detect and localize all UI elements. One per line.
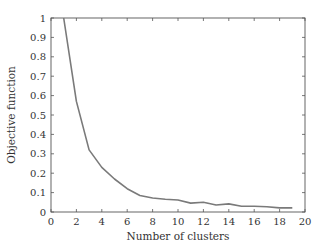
y-tick-label: 0.1 bbox=[30, 187, 46, 198]
x-axis-label: Number of clusters bbox=[127, 230, 230, 242]
y-tick-label: 0.5 bbox=[30, 110, 46, 121]
y-tick-label: 0.2 bbox=[30, 168, 46, 179]
x-tick-label: 10 bbox=[172, 216, 185, 227]
x-tick-label: 2 bbox=[73, 216, 79, 227]
y-tick-label: 0.7 bbox=[30, 71, 46, 82]
x-tick-label: 6 bbox=[124, 216, 130, 227]
x-tick-label: 14 bbox=[222, 216, 235, 227]
y-tick-label: 0.6 bbox=[30, 90, 46, 101]
y-tick-label: 1 bbox=[40, 13, 46, 24]
y-tick-label: 0.8 bbox=[30, 51, 46, 62]
y-tick-label: 0 bbox=[40, 207, 46, 218]
x-tick-label: 20 bbox=[299, 216, 312, 227]
y-axis-ticks: 00.10.20.30.40.50.60.70.80.91 bbox=[30, 13, 305, 218]
y-axis-label: Objective function bbox=[5, 66, 17, 164]
x-tick-label: 16 bbox=[248, 216, 261, 227]
plot-frame bbox=[51, 18, 305, 212]
plot-area bbox=[51, 18, 305, 212]
x-tick-label: 18 bbox=[273, 216, 286, 227]
y-tick-label: 0.4 bbox=[30, 129, 46, 140]
line-chart: 02468101214161820 00.10.20.30.40.50.60.7… bbox=[0, 0, 323, 249]
y-tick-label: 0.3 bbox=[30, 148, 46, 159]
x-tick-label: 4 bbox=[99, 216, 105, 227]
y-tick-label: 0.9 bbox=[30, 32, 46, 43]
x-tick-label: 8 bbox=[149, 216, 155, 227]
x-tick-label: 12 bbox=[197, 216, 210, 227]
x-tick-label: 0 bbox=[48, 216, 54, 227]
x-axis-ticks: 02468101214161820 bbox=[48, 18, 312, 227]
series-line bbox=[64, 18, 293, 208]
